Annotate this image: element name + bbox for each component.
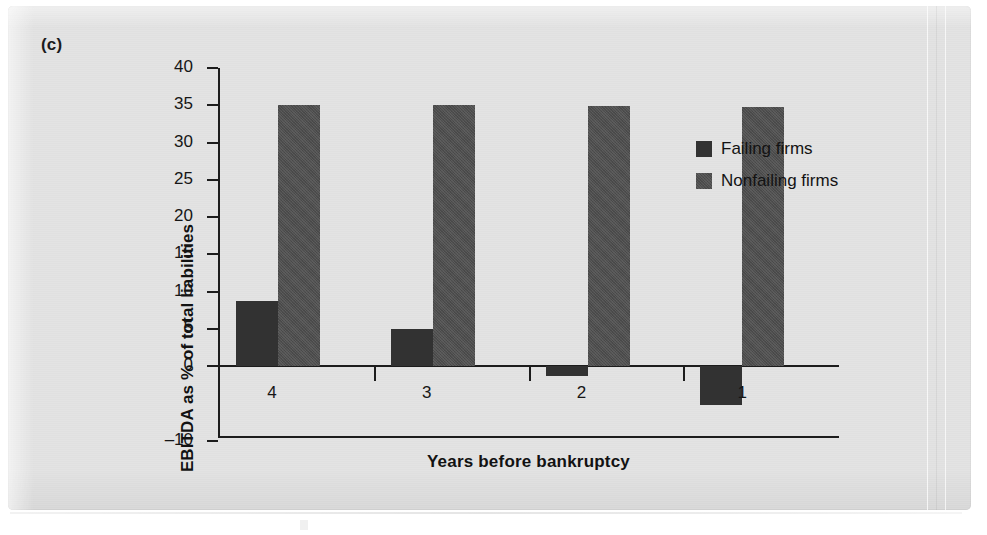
x-axis-label-4: 4	[252, 383, 292, 403]
page-edge-mark	[300, 520, 308, 530]
legend-item-nonfailing-firms: Nonfailing firms	[696, 171, 838, 191]
y-axis-tick	[207, 291, 218, 293]
chart-legend: Failing firmsNonfailing firms	[696, 139, 838, 203]
x-axis-line	[218, 436, 839, 438]
y-axis-tick	[207, 179, 218, 181]
y-axis-tick	[207, 365, 218, 367]
legend-swatch-icon	[696, 173, 712, 189]
x-axis-label-2: 2	[562, 383, 602, 403]
x-axis-group-tick	[374, 367, 376, 381]
x-axis-group-tick	[529, 367, 531, 381]
bar-nonfailing-firms-year-2	[588, 106, 630, 366]
scanned-figure-panel: (c) EBITDA as % of total liabilities 403…	[8, 6, 971, 510]
x-axis-group-tick	[683, 367, 685, 381]
page-edge-shadow	[10, 512, 962, 514]
legend-label: Nonfailing firms	[721, 171, 838, 191]
y-axis-tick-text: 40	[147, 57, 193, 77]
x-axis-label-3: 3	[407, 383, 447, 403]
legend-item-failing-firms: Failing firms	[696, 139, 838, 159]
y-axis-tick-text: 35	[147, 94, 193, 114]
y-axis-tick-text: –10	[147, 430, 193, 450]
y-axis-tick-text: 20	[147, 206, 193, 226]
y-axis-tick	[207, 104, 218, 106]
y-axis-tick	[207, 328, 218, 330]
bar-chart: EBITDA as % of total liabilities 4035302…	[8, 6, 971, 510]
legend-label: Failing firms	[721, 139, 813, 159]
bar-nonfailing-firms-year-3	[433, 105, 475, 366]
y-axis-title-holder: EBITDA as % of total liabilities	[100, 106, 126, 386]
y-axis-tick	[207, 216, 218, 218]
screenshot-page: (c) EBITDA as % of total liabilities 403…	[0, 0, 987, 535]
x-axis-label-1: 1	[722, 383, 762, 403]
y-axis-tick	[207, 253, 218, 255]
y-axis-tick-text: 5	[147, 318, 193, 338]
bar-failing-firms-year-4	[236, 301, 278, 366]
y-axis-tick-text: 0	[147, 355, 193, 375]
bar-nonfailing-firms-year-4	[278, 105, 320, 366]
y-axis-tick	[207, 142, 218, 144]
y-axis-tick-text: 30	[147, 132, 193, 152]
y-axis-tick	[207, 440, 218, 442]
y-axis-tick-text: 15	[147, 243, 193, 263]
bar-failing-firms-year-3	[391, 329, 433, 366]
bar-failing-firms-year-2	[546, 366, 588, 376]
legend-swatch-icon	[696, 141, 712, 157]
y-axis-tick-text: 10	[147, 281, 193, 301]
y-axis-line	[218, 68, 220, 438]
y-axis-tick-text: 25	[147, 169, 193, 189]
y-axis-tick	[207, 67, 218, 69]
x-axis-title: Years before bankruptcy	[218, 452, 839, 472]
